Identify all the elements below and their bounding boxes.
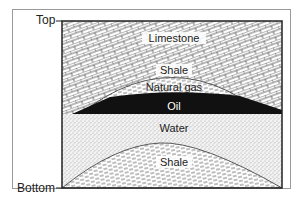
- water-label: Water: [160, 122, 189, 134]
- oil-label: Oil: [167, 100, 180, 112]
- limestone-label: Limestone: [149, 32, 200, 44]
- cross-section-diagram: Limestone Shale Natural gas Oil Water Sh…: [0, 0, 302, 210]
- shale-lower-label: Shale: [160, 156, 188, 168]
- natural-gas-label: Natural gas: [146, 81, 203, 93]
- shale-upper-label: Shale: [160, 64, 188, 76]
